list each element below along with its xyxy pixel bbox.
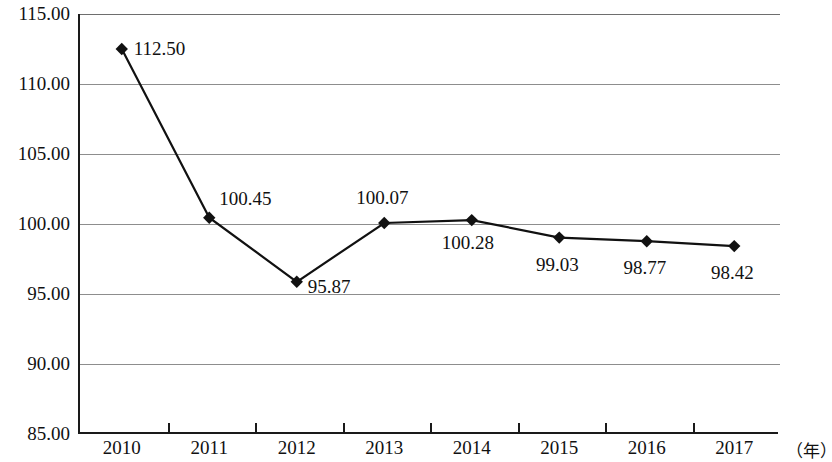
gridline: [80, 154, 780, 155]
x-axis-tick: [518, 423, 520, 432]
y-axis-tick-label: 105.00: [0, 143, 70, 165]
y-axis-tick-label: 115.00: [0, 3, 70, 25]
y-axis-tick-label: 100.00: [0, 213, 70, 235]
plot-area: [78, 14, 778, 434]
y-axis-tick-label: 90.00: [0, 353, 70, 375]
x-axis-tick: [605, 423, 607, 432]
data-point-label: 98.42: [711, 262, 754, 284]
x-axis-tick: [430, 423, 432, 432]
data-point-label: 95.87: [308, 276, 351, 298]
data-point-label: 112.50: [134, 38, 186, 60]
line-chart: 115.00110.00105.00100.0095.0090.0085.00 …: [0, 0, 832, 462]
x-axis-tick-label: 2011: [191, 437, 228, 459]
data-point-label: 98.77: [623, 257, 666, 279]
x-axis-tick-label: 2014: [453, 437, 491, 459]
y-axis-tick-label: 85.00: [0, 423, 70, 445]
y-axis-tick-label: 95.00: [0, 283, 70, 305]
x-axis-tick: [168, 423, 170, 432]
x-axis-tick-label: 2012: [278, 437, 316, 459]
gridline: [80, 14, 780, 15]
gridline: [80, 294, 780, 295]
data-point-label: 100.07: [356, 187, 408, 209]
x-axis-tick-label: 2016: [628, 437, 666, 459]
x-axis-tick-label: 2013: [365, 437, 403, 459]
data-point-label: 99.03: [536, 254, 579, 276]
data-point-label: 100.45: [219, 188, 271, 210]
x-axis-tick: [693, 423, 695, 432]
x-axis-unit-label: （年）: [786, 437, 832, 462]
x-axis-tick: [255, 423, 257, 432]
x-axis-tick-label: 2017: [715, 437, 753, 459]
x-axis-tick-label: 2015: [540, 437, 578, 459]
y-axis-tick-label: 110.00: [0, 73, 70, 95]
x-axis-tick-label: 2010: [103, 437, 141, 459]
data-point-label: 100.28: [442, 232, 494, 254]
x-axis-tick: [343, 423, 345, 432]
gridline: [80, 364, 780, 365]
gridline: [80, 224, 780, 225]
gridline: [80, 84, 780, 85]
